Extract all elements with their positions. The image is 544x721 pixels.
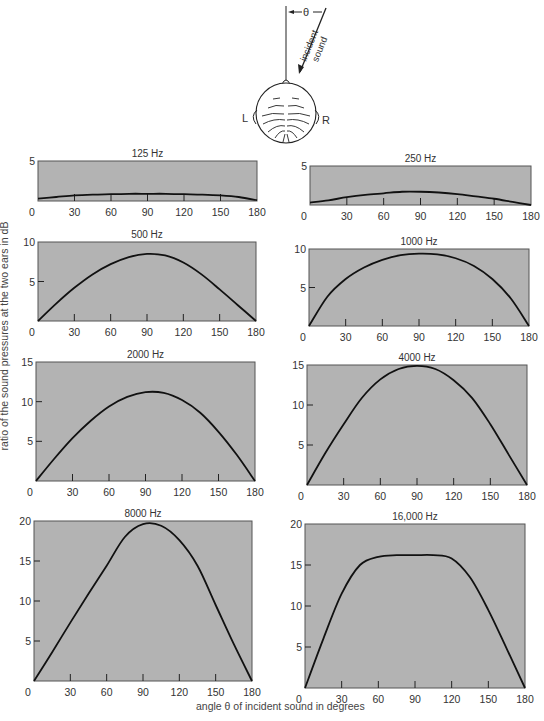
panel-2000hz: 2000 Hz030609012015018051015 (21, 349, 264, 498)
x-tick-label: 120 (443, 693, 461, 705)
panel-title: 125 Hz (132, 148, 164, 159)
panel-title: 500 Hz (131, 229, 163, 240)
x-tick-label: 180 (522, 210, 540, 222)
x-tick-label: 0 (29, 206, 35, 218)
y-tick-label: 10 (290, 600, 302, 612)
plot-area (34, 521, 252, 681)
panel-title: 16,000 Hz (392, 511, 438, 522)
y-tick-label: 15 (21, 356, 33, 368)
x-tick-label: 0 (300, 331, 306, 343)
x-tick-label: 150 (212, 206, 230, 218)
x-tick-label: 60 (376, 331, 388, 343)
theta-label: θ (303, 6, 309, 18)
plot-area (36, 362, 255, 481)
x-tick-label: 150 (485, 210, 503, 222)
panel-title: 4000 Hz (398, 352, 435, 363)
x-tick-label: 150 (211, 326, 229, 338)
x-tick-label: 60 (105, 326, 117, 338)
x-tick-label: 30 (338, 490, 350, 502)
panel-title: 8000 Hz (124, 508, 161, 519)
plot-area (307, 365, 527, 485)
y-tick-label: 5 (296, 641, 302, 653)
panel-title: 250 Hz (405, 153, 437, 164)
y-tick-label: 5 (25, 635, 31, 647)
x-tick-label: 150 (480, 693, 498, 705)
y-tick-label: 5 (29, 276, 35, 288)
x-tick-label: 150 (207, 686, 225, 698)
x-tick-label: 180 (520, 331, 538, 343)
y-tick-label: 15 (292, 359, 304, 371)
x-tick-label: 0 (298, 490, 304, 502)
left-ear-label: L (242, 112, 248, 124)
y-tick-label: 5 (301, 160, 307, 172)
y-tick-label: 5 (300, 282, 306, 294)
x-tick-label: 180 (246, 486, 264, 498)
y-tick-label: 10 (292, 399, 304, 411)
x-tick-label: 30 (341, 210, 353, 222)
x-tick-label: 90 (141, 326, 153, 338)
y-tick-label: 10 (21, 396, 33, 408)
x-tick-label: 60 (103, 486, 115, 498)
x-tick-label: 150 (210, 486, 228, 498)
x-tick-label: 120 (171, 686, 189, 698)
x-tick-label: 0 (29, 326, 35, 338)
x-tick-label: 60 (372, 693, 384, 705)
panel-1000hz: 1000 Hz0306090120150180510 (294, 236, 538, 343)
x-tick-label: 60 (105, 206, 117, 218)
x-tick-label: 180 (516, 693, 534, 705)
y-tick-label: 10 (294, 243, 306, 255)
right-ear-label: R (322, 114, 330, 126)
x-tick-label: 180 (247, 326, 265, 338)
y-tick-label: 20 (290, 518, 302, 530)
x-tick-label: 0 (25, 686, 31, 698)
x-tick-label: 30 (68, 326, 80, 338)
x-tick-label: 90 (411, 490, 423, 502)
plot-area (305, 524, 525, 688)
x-tick-label: 120 (447, 331, 465, 343)
x-tick-label: 150 (482, 490, 500, 502)
head-icon (256, 83, 316, 143)
panel-title: 2000 Hz (127, 349, 164, 360)
x-tick-label: 90 (409, 693, 421, 705)
panel-250hz: 250 Hz03060901201501805 (301, 153, 540, 222)
x-tick-label: 60 (101, 686, 113, 698)
x-tick-label: 180 (248, 206, 266, 218)
panel-125hz: 125 Hz03060901201501805 (29, 148, 266, 218)
head-diagram: θ incident sound L R (242, 6, 330, 143)
x-tick-label: 90 (137, 686, 149, 698)
x-tick-label: 90 (142, 206, 154, 218)
chart-canvas: θ incident sound L R 125 Hz030 (0, 0, 544, 721)
panel-16000hz: 16,000 Hz03060901201501805101520 (290, 511, 534, 705)
x-tick-label: 150 (484, 331, 502, 343)
y-tick-label: 10 (23, 236, 35, 248)
x-tick-label: 0 (27, 486, 33, 498)
y-tick-label: 20 (19, 515, 31, 527)
x-tick-label: 60 (378, 210, 390, 222)
panel-500hz: 500 Hz0306090120150180510 (23, 229, 265, 338)
x-tick-label: 90 (413, 331, 425, 343)
figure: θ incident sound L R 125 Hz030 (0, 0, 544, 721)
y-tick-label: 15 (19, 555, 31, 567)
y-tick-label: 15 (290, 559, 302, 571)
x-tick-label: 30 (64, 686, 76, 698)
x-tick-label: 30 (340, 331, 352, 343)
x-tick-label: 120 (173, 486, 191, 498)
x-tick-label: 90 (415, 210, 427, 222)
x-tick-label: 0 (301, 210, 307, 222)
y-tick-label: 5 (27, 435, 33, 447)
x-tick-label: 120 (175, 326, 193, 338)
y-tick-label: 5 (298, 439, 304, 451)
x-tick-label: 120 (175, 206, 193, 218)
panel-8000hz: 8000 Hz03060901201501805101520 (19, 508, 261, 698)
x-axis-label: angle θ of incident sound in degrees (196, 700, 365, 712)
plot-area (309, 249, 529, 326)
x-tick-label: 180 (518, 490, 536, 502)
x-tick-label: 180 (243, 686, 261, 698)
x-tick-label: 30 (67, 486, 79, 498)
panel-4000hz: 4000 Hz030609012015018051015 (292, 352, 536, 502)
x-tick-label: 120 (449, 210, 467, 222)
x-tick-label: 90 (140, 486, 152, 498)
y-tick-label: 10 (19, 595, 31, 607)
panel-title: 1000 Hz (400, 236, 437, 247)
x-tick-label: 120 (445, 490, 463, 502)
